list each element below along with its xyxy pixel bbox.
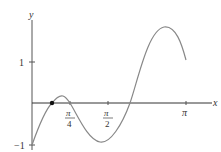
x-tick-label-pi2-den: 2 — [105, 119, 110, 129]
x-tick-label-pi4-den: 4 — [67, 119, 72, 129]
y-tick-label-neg1: −1 — [14, 140, 25, 151]
x-tick-label-pi2-num: π — [104, 108, 109, 118]
function-plot: y x 1 −1 π 4 π 2 π — [0, 0, 221, 152]
x-tick-label-pi4-num: π — [66, 108, 71, 118]
x-axis-label: x — [212, 97, 218, 108]
marked-point — [50, 101, 54, 105]
y-axis-label: y — [28, 9, 34, 20]
y-tick-label-1: 1 — [19, 57, 24, 68]
x-tick-label-pi: π — [182, 107, 188, 118]
